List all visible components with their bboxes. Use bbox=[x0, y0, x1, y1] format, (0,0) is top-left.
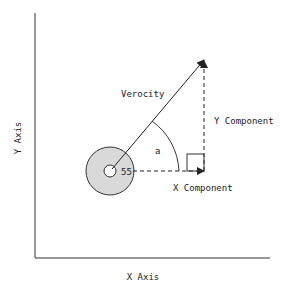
right-angle-marker bbox=[187, 154, 204, 171]
x-axis-label: X Axis bbox=[127, 272, 160, 282]
y-component-label: Y Component bbox=[214, 116, 274, 126]
y-axis-label: Y Axis bbox=[13, 122, 23, 155]
x-component-label: X Component bbox=[173, 183, 233, 193]
velocity-diagram: X Axis Y Axis 55 Verocity X Component Y … bbox=[0, 0, 284, 293]
velocity-label: Verocity bbox=[121, 89, 165, 99]
angle-label: a bbox=[155, 146, 160, 156]
object-label: 55 bbox=[121, 167, 132, 177]
